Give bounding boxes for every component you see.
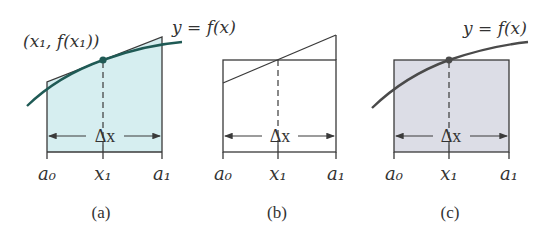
tick-label-a0: a₀	[214, 163, 232, 184]
panel-a: Δx (x₁, f(x₁)) y = f(x) a₀ x₁ a₁ (a)	[23, 17, 236, 222]
tick-label-a1: a₁	[500, 163, 518, 184]
panel-c: Δx y = f(x) a₀ x₁ a₁ (c)	[372, 18, 528, 222]
tick-label-a1: a₁	[153, 163, 171, 184]
tick-label-a0: a₀	[38, 163, 56, 184]
midpoint-dot	[446, 57, 453, 64]
tick-label-x1: x₁	[440, 163, 457, 184]
midpoint-dot	[99, 56, 106, 63]
tick-label-x1: x₁	[269, 163, 286, 184]
caption-c: (c)	[441, 203, 460, 222]
delta-x-label: Δx	[441, 126, 462, 146]
trapezoid-top-line	[223, 35, 336, 83]
curve-label: y = f(x)	[171, 17, 236, 37]
curve-label: y = f(x)	[462, 18, 527, 38]
delta-x-label: Δx	[270, 126, 291, 146]
tick-label-x1: x₁	[94, 163, 111, 184]
panel-b: Δx a₀ x₁ a₁ (b)	[214, 35, 345, 222]
caption-b: (b)	[267, 203, 287, 222]
point-label: (x₁, f(x₁))	[23, 31, 99, 51]
tick-label-a1: a₁	[327, 163, 345, 184]
tick-label-a0: a₀	[385, 163, 403, 184]
delta-x-label: Δx	[95, 126, 116, 146]
caption-a: (a)	[92, 203, 111, 222]
midpoint-rule-figure: Δx (x₁, f(x₁)) y = f(x) a₀ x₁ a₁ (a) Δx …	[0, 0, 543, 235]
